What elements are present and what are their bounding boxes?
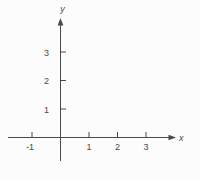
x-tick-label: 1 <box>86 142 91 152</box>
y-axis-label: y <box>59 4 65 14</box>
x-axis-label: x <box>178 133 184 143</box>
x-axis-arrow-icon <box>169 135 177 141</box>
tick-group: -1123123 <box>26 48 149 152</box>
x-tick-label: 2 <box>115 142 120 152</box>
y-tick-label: 3 <box>44 48 49 58</box>
y-axis-arrow-icon <box>58 18 64 26</box>
axes-svg: -1123123 x y <box>0 0 200 180</box>
x-tick-label: -1 <box>26 142 34 152</box>
y-tick-label: 2 <box>44 76 49 86</box>
coordinate-plane: -1123123 x y <box>0 0 200 180</box>
y-tick-label: 1 <box>44 105 49 115</box>
x-tick-label: 3 <box>143 142 148 152</box>
